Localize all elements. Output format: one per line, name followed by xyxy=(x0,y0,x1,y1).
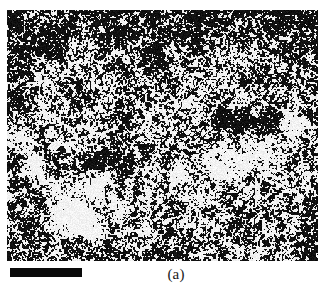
figure-root: (a) xyxy=(0,0,328,290)
micrograph-canvas xyxy=(7,10,318,261)
figure-caption-label: (a) xyxy=(167,264,184,284)
micrograph-image xyxy=(7,10,318,261)
figure-caption: (a) xyxy=(0,264,328,284)
